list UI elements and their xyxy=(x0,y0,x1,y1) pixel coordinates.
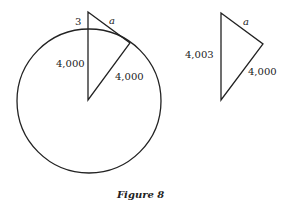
tangent-label-left: a xyxy=(109,15,115,26)
slanted-radius-label: 4,000 xyxy=(115,71,144,82)
figure-caption: Figure 8 xyxy=(116,189,164,200)
small-segment-label: 3 xyxy=(75,16,81,27)
right-triangle xyxy=(221,13,263,100)
left-diagram: 3 a 4,000 4,000 xyxy=(17,12,161,173)
vertical-side-label: 4,003 xyxy=(185,49,214,60)
earth-circle xyxy=(17,29,161,173)
figure-8-diagram: 3 a 4,000 4,000 a 4,003 4,000 Figure 8 xyxy=(0,0,293,203)
tangent-label-right: a xyxy=(243,16,249,27)
vertical-radius-label: 4,000 xyxy=(56,58,85,69)
slanted-side-label: 4,000 xyxy=(248,66,277,77)
right-diagram: a 4,003 4,000 xyxy=(185,13,277,100)
